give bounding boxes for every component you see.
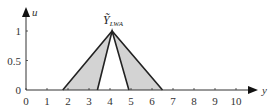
y-axis-arrow-icon	[22, 7, 30, 17]
y-tick-label: 1	[16, 25, 22, 37]
y-axis-ticks: 00.51	[7, 25, 28, 96]
x-tick-label: 6	[149, 95, 155, 107]
svg-text:ỸLWA: ỸLWA	[103, 13, 124, 28]
x-tick-label: 2	[65, 95, 71, 107]
x-axis-arrow-icon	[248, 86, 258, 94]
x-tick-label: 8	[191, 95, 197, 107]
x-tick-label: 10	[231, 95, 243, 107]
x-tick-label: 0	[23, 95, 29, 107]
y-axis-label: u	[32, 6, 38, 18]
y-tick-label: 0.5	[7, 55, 21, 67]
x-tick-label: 9	[212, 95, 218, 107]
x-tick-label: 7	[170, 95, 176, 107]
x-axis-label: y	[261, 84, 267, 96]
x-tick-label: 3	[86, 95, 92, 107]
apex-annotation: ỸLWA	[103, 13, 124, 28]
y-tick-label: 0	[16, 84, 22, 96]
chart: 012345678910 00.51 y u ỸLWA	[0, 0, 277, 112]
x-tick-label: 4	[107, 95, 113, 107]
x-axis-ticks: 012345678910	[23, 88, 242, 107]
x-tick-label: 5	[128, 95, 134, 107]
x-tick-label: 1	[44, 95, 50, 107]
footprint-of-uncertainty	[63, 31, 163, 90]
annotation-subscript: LWA	[109, 20, 124, 28]
